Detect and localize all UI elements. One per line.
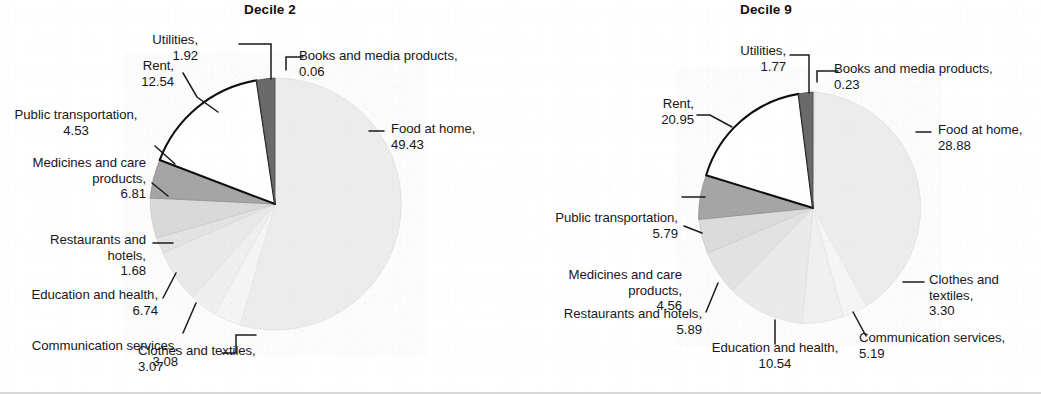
callout-books-and-media-products-decile-9: Books and media products, 0.23 xyxy=(834,61,1040,92)
callout-education-and-health-decile-9: Education and health, 10.54 xyxy=(693,340,857,371)
callout-rent-decile-9: Rent, 20.95 xyxy=(608,96,694,127)
callout-medicines-and-care-products-decile-9: Medicines and care products, 4.56 xyxy=(520,267,682,314)
callout-food-at-home-decile-9: Food at home, 28.88 xyxy=(938,122,1041,153)
callout-utilities-decile-9: Utilities, 1.77 xyxy=(690,43,786,74)
callout-food-at-home-decile-2: Food at home, 49.43 xyxy=(391,121,511,152)
callout-clothes-and-textiles-decile-9: Clothes and textiles, 3.30 xyxy=(929,272,1029,319)
callout-communication-services-decile-9: Communication services, 5.19 xyxy=(859,330,1041,361)
callout-books-and-media-products-decile-2: Books and media products, 0.06 xyxy=(299,48,509,79)
callout-communication-services-decile-2: Communication services, 3.08 xyxy=(4,338,178,369)
callout-rent-decile-2: Rent, 12.54 xyxy=(84,58,174,89)
chart-panel-decile-9: Decile 9 xyxy=(520,0,1040,394)
callout-restaurants-and-hotels-decile-2: Restaurants and hotels, 1.68 xyxy=(18,232,146,279)
callout-public-transportation-decile-2: Public transportation, 4.53 xyxy=(0,107,152,138)
callout-public-transportation-decile-9: Public transportation, 5.79 xyxy=(530,210,678,241)
callout-medicines-and-care-products-decile-2: Medicines and care products, 6.81 xyxy=(2,155,146,202)
callout-education-and-health-decile-2: Education and health, 6.74 xyxy=(0,287,158,318)
chart-panel-decile-2: Decile 2 xyxy=(0,0,520,394)
